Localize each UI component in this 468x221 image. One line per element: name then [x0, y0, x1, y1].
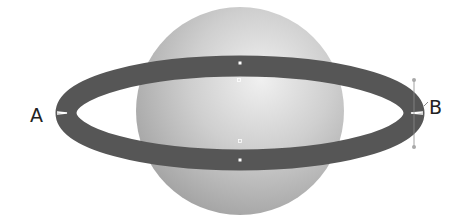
ring-bottom-point[interactable] [239, 159, 242, 162]
ring-top-point[interactable] [239, 62, 242, 65]
handle-b-arrow [424, 102, 428, 106]
handle-b-top[interactable] [412, 78, 416, 82]
label-a: A [30, 106, 43, 125]
handle-b-bottom[interactable] [412, 145, 416, 149]
label-b: B [429, 98, 442, 117]
planet-sphere [136, 7, 344, 215]
planet-diagram [0, 0, 468, 221]
